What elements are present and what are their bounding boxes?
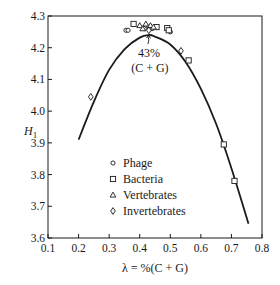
- square-marker-icon: [166, 28, 171, 33]
- y-tick-label: 3.7: [31, 200, 46, 212]
- square-marker-icon: [131, 21, 136, 26]
- y-tick-label: 4.2: [31, 42, 46, 54]
- svg-text:H1: H1: [23, 124, 37, 140]
- x-tick-label: 0.7: [224, 242, 239, 254]
- chart: 3.63.73.83.94.04.14.24.3 0.10.20.30.40.5…: [0, 0, 280, 285]
- y-tick-label: 4.0: [31, 105, 46, 117]
- x-tick-label: 0.8: [255, 242, 270, 254]
- square-marker-icon: [221, 142, 226, 147]
- x-tick-label: 0.2: [71, 242, 86, 254]
- legend-item-invertebrates: Invertebrates: [111, 204, 186, 218]
- y-tick-label: 4.1: [31, 73, 46, 85]
- annotation-line1: 43%: [138, 46, 160, 60]
- y-tick-label: 3.8: [31, 169, 46, 181]
- y-tick-label: 4.3: [31, 10, 46, 22]
- annotation-arrow-icon: [146, 36, 150, 45]
- x-tick-label: 0.3: [102, 242, 117, 254]
- legend-label: Vertebrates: [123, 188, 177, 202]
- triangle-marker-icon: [143, 21, 149, 26]
- x-tick-label: 0.4: [133, 242, 148, 254]
- x-axis-title: λ = %(C + G): [122, 261, 188, 275]
- legend-label: Invertebrates: [123, 204, 186, 218]
- x-axis-ticks: 0.10.20.30.40.50.60.70.8: [41, 234, 270, 254]
- annotation-line2: (C + G): [131, 61, 168, 75]
- legend-label: Bacteria: [123, 172, 164, 186]
- circle-legend-icon: [111, 161, 115, 165]
- y-axis-title: H1: [23, 124, 37, 140]
- triangle-legend-icon: [110, 192, 116, 197]
- legend-item-vertebrates: Vertebrates: [110, 188, 177, 202]
- legend: PhageBacteriaVertebratesInvertebrates: [110, 156, 186, 218]
- square-marker-icon: [232, 178, 237, 183]
- legend-item-bacteria: Bacteria: [110, 172, 163, 186]
- diamond-marker-icon: [88, 93, 93, 100]
- square-legend-icon: [110, 176, 115, 181]
- x-tick-label: 0.5: [163, 242, 178, 254]
- x-tick-label: 0.6: [194, 242, 209, 254]
- data-points: [88, 21, 237, 183]
- diamond-legend-icon: [111, 208, 116, 215]
- circle-marker-icon: [126, 28, 130, 32]
- legend-label: Phage: [123, 156, 152, 170]
- legend-item-phage: Phage: [111, 156, 152, 170]
- square-marker-icon: [186, 58, 191, 63]
- y-axis-ticks: 3.63.73.83.94.04.14.24.3: [31, 10, 52, 244]
- x-tick-label: 0.1: [41, 242, 56, 254]
- y-axis-title-sub: 1: [33, 130, 38, 140]
- peak-annotation: 43% (C + G): [131, 36, 168, 76]
